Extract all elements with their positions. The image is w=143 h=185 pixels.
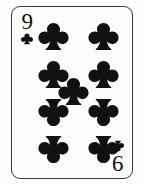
club-pip-icon [88,60,119,92]
card-face[interactable]: 9 9 [11,6,133,179]
club-pip-icon [38,95,69,127]
club-pip-icon [88,132,119,164]
pip-field [12,7,132,178]
club-pip-icon [88,22,119,54]
playing-card-nine-of-clubs[interactable]: 9 9 [0,0,143,185]
club-pip-icon [38,22,69,54]
club-pip-icon [88,95,119,127]
club-pip-icon [38,132,69,164]
